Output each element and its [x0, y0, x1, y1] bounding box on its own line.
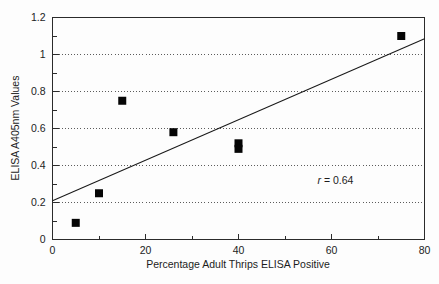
data-point-marker — [72, 219, 80, 227]
y-tick-label: 0.8 — [31, 85, 46, 97]
chart-canvas: 00.20.40.60.811.2 020406080 r = 0.64 Per… — [0, 0, 439, 284]
scatter-chart: 00.20.40.60.811.2 020406080 r = 0.64 Per… — [0, 0, 439, 284]
data-point-marker — [169, 128, 177, 136]
y-tick-label: 1.2 — [31, 11, 46, 23]
x-axis-tick-labels: 020406080 — [50, 244, 431, 256]
regression-line — [53, 39, 425, 201]
y-axis-title: ELISA A405nm Values — [9, 76, 21, 181]
x-axis-title: Percentage Adult Thrips ELISA Positive — [146, 258, 330, 270]
gridlines — [53, 55, 425, 203]
x-tick-label: 60 — [326, 244, 338, 256]
x-axis-ticks — [53, 234, 425, 240]
y-tick-label: 0.4 — [31, 159, 46, 171]
y-axis-ticks — [53, 18, 59, 240]
data-point-marker — [235, 145, 243, 153]
x-tick-label: 20 — [140, 244, 152, 256]
y-tick-label: 0.6 — [31, 122, 46, 134]
y-tick-label: 0 — [40, 233, 46, 245]
axes-frame — [52, 17, 425, 240]
data-points — [72, 32, 406, 227]
x-tick-label: 40 — [233, 244, 245, 256]
data-point-marker — [118, 97, 126, 105]
y-tick-label: 1 — [40, 48, 46, 60]
data-point-marker — [397, 32, 405, 40]
correlation-annotation: r = 0.64 — [318, 174, 354, 186]
y-tick-label: 0.2 — [31, 196, 46, 208]
data-point-marker — [95, 189, 103, 197]
x-tick-label: 80 — [419, 244, 431, 256]
x-tick-label: 0 — [50, 244, 56, 256]
y-axis-tick-labels: 00.20.40.60.811.2 — [31, 11, 46, 245]
